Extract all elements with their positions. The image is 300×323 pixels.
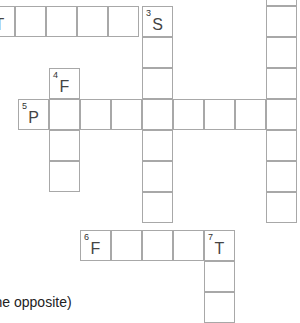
clue-text: (the opposite) bbox=[0, 294, 72, 310]
crossword-cell[interactable] bbox=[204, 99, 235, 130]
crossword-cell[interactable] bbox=[49, 99, 80, 130]
crossword-cell[interactable] bbox=[173, 99, 204, 130]
cell-letter: T bbox=[0, 16, 14, 34]
crossword-cell[interactable]: 4F bbox=[49, 68, 80, 99]
crossword-cell[interactable]: 5P bbox=[18, 99, 49, 130]
crossword-cell[interactable] bbox=[15, 6, 46, 37]
crossword-cell[interactable] bbox=[111, 230, 142, 261]
cell-letter: T bbox=[205, 240, 234, 258]
crossword-cell[interactable] bbox=[80, 99, 111, 130]
crossword-cell[interactable] bbox=[266, 6, 297, 37]
crossword-cell[interactable]: 7T bbox=[204, 230, 235, 261]
cell-letter: F bbox=[50, 78, 79, 96]
crossword-cell[interactable] bbox=[142, 192, 173, 223]
crossword-cell[interactable] bbox=[142, 161, 173, 192]
cell-letter: F bbox=[81, 240, 110, 258]
cell-letter: S bbox=[143, 16, 172, 34]
crossword-cell[interactable] bbox=[173, 230, 204, 261]
crossword-cell[interactable]: T bbox=[0, 6, 15, 37]
crossword-cell[interactable] bbox=[49, 130, 80, 161]
crossword-cell[interactable] bbox=[204, 292, 235, 323]
crossword-cell[interactable] bbox=[235, 99, 266, 130]
crossword-cell[interactable] bbox=[46, 6, 77, 37]
cell-letter: P bbox=[19, 109, 48, 127]
crossword-cell[interactable] bbox=[266, 37, 297, 68]
crossword-cell[interactable] bbox=[266, 68, 297, 99]
crossword-cell[interactable] bbox=[204, 261, 235, 292]
crossword-cell[interactable] bbox=[142, 230, 173, 261]
crossword-cell[interactable] bbox=[266, 192, 297, 223]
crossword-cell[interactable] bbox=[142, 37, 173, 68]
crossword-cell[interactable] bbox=[266, 130, 297, 161]
crossword-cell[interactable] bbox=[142, 68, 173, 99]
crossword-cell[interactable]: 3S bbox=[142, 6, 173, 37]
crossword-cell[interactable] bbox=[266, 99, 297, 130]
crossword-cell[interactable] bbox=[108, 6, 139, 37]
crossword-cell[interactable] bbox=[111, 99, 142, 130]
crossword-cell[interactable]: 6F bbox=[80, 230, 111, 261]
crossword-cell[interactable] bbox=[142, 130, 173, 161]
crossword-cell[interactable] bbox=[266, 161, 297, 192]
crossword-cell[interactable] bbox=[77, 6, 108, 37]
crossword-cell[interactable] bbox=[142, 99, 173, 130]
crossword-cell[interactable] bbox=[49, 161, 80, 192]
